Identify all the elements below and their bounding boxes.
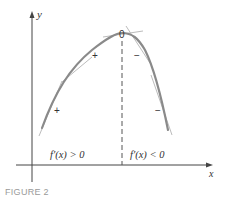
- sign-right-upper: −: [134, 50, 140, 61]
- region-label-positive: f′(x) > 0: [50, 149, 85, 161]
- y-axis: [30, 11, 35, 182]
- tangent-lines: [39, 26, 172, 136]
- x-axis-arrow-icon: [206, 163, 213, 168]
- region-label-negative: f′(x) < 0: [130, 149, 165, 161]
- x-axis-label: x: [208, 168, 214, 179]
- derivative-sign-diagram: y x 0 + + − − f′(x) > 0 f′(x) < 0 FIGURE…: [0, 0, 231, 200]
- concave-down-curve: [42, 33, 168, 130]
- peak-zero-label: 0: [119, 29, 125, 40]
- figure-caption: FIGURE 2: [5, 187, 49, 197]
- sign-left-lower: +: [54, 105, 60, 116]
- sign-right-lower: −: [155, 105, 161, 116]
- y-axis-arrow-icon: [30, 11, 35, 18]
- x-axis: [16, 163, 213, 168]
- sign-left-upper: +: [92, 50, 98, 61]
- y-axis-label: y: [36, 8, 42, 20]
